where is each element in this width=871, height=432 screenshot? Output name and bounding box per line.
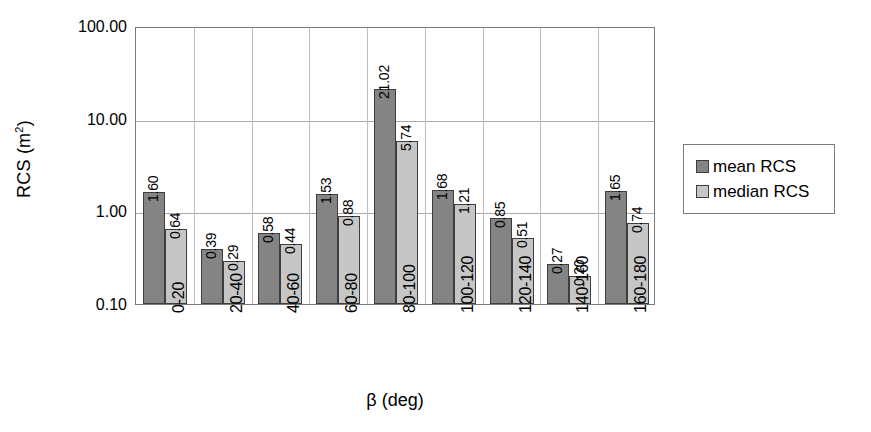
bar-value-label: 0.64	[168, 213, 182, 239]
x-axis-tick-label: 100-120	[460, 256, 476, 313]
category-separator-gridline	[598, 28, 599, 304]
bar-mean	[316, 194, 338, 304]
x-axis-tick-label: 120-140	[518, 256, 534, 313]
legend-swatch-mean	[696, 160, 709, 173]
legend-swatch-median	[696, 185, 709, 198]
y-axis-tick-label: 100.00	[57, 19, 127, 35]
bar-mean	[490, 218, 512, 304]
bar-value-label: 0.58	[261, 217, 275, 243]
y-axis-title: RCS (m2)	[13, 89, 35, 229]
category-separator-gridline	[309, 28, 310, 304]
x-axis-tick-label: 80-100	[402, 264, 418, 313]
bar-value-label: 1.65	[608, 175, 622, 201]
y-axis-tick-label: 1.00	[57, 204, 127, 220]
category-separator-gridline	[367, 28, 368, 304]
y-axis-title-paren: )	[14, 120, 34, 126]
bar-value-label: 0.74	[630, 207, 644, 233]
legend-item: median RCS	[696, 179, 824, 204]
bar-value-label: 21.02	[377, 65, 391, 99]
bar-mean	[432, 190, 454, 304]
bar-value-label: 5.74	[399, 125, 413, 151]
bar-value-label: 1.60	[146, 176, 160, 202]
category-separator-gridline	[425, 28, 426, 304]
bar-value-label: 1.68	[435, 174, 449, 200]
bar-value-label: 0.88	[341, 200, 355, 226]
bar-mean	[605, 191, 627, 304]
legend-label: median RCS	[713, 182, 809, 202]
x-axis-title: β (deg)	[135, 390, 655, 411]
x-axis-tick-label: 40-60	[286, 273, 302, 313]
bar-value-label: 1.53	[319, 178, 333, 204]
x-axis-tick-label: 140-160	[575, 256, 591, 313]
y-axis-tick-label: 0.10	[57, 297, 127, 313]
y-axis-tick-label: 10.00	[57, 112, 127, 128]
y-axis-tick-labels: 100.0010.001.000.10	[55, 0, 127, 432]
legend: mean RCSmedian RCS	[683, 144, 835, 214]
bar-mean	[143, 192, 165, 304]
category-separator-gridline	[194, 28, 195, 304]
bar-value-label: 0.44	[283, 228, 297, 254]
rcs-bar-chart: RCS (m2) 100.0010.001.000.10 1.600.640.3…	[0, 0, 871, 432]
legend-label: mean RCS	[713, 157, 796, 177]
bar-value-label: 0.29	[226, 245, 240, 271]
y-axis-title-text: RCS (m	[14, 133, 34, 198]
bar-mean	[374, 89, 396, 304]
bar-value-label: 0.85	[493, 201, 507, 227]
x-axis-tick-labels: 0-2020-4040-6060-8080-100100-120120-1401…	[135, 305, 655, 395]
y-axis-title-exponent: 2	[13, 126, 25, 132]
bar-value-label: 0.39	[204, 233, 218, 259]
category-separator-gridline	[252, 28, 253, 304]
x-axis-tick-label: 0-20	[171, 282, 187, 313]
bar-value-label: 1.21	[457, 187, 471, 213]
bar-value-label: 0.27	[550, 248, 564, 274]
category-separator-gridline	[483, 28, 484, 304]
bar-value-label: 0.51	[515, 222, 529, 248]
x-axis-tick-label: 20-40	[229, 273, 245, 313]
x-axis-tick-label: 60-80	[344, 273, 360, 313]
legend-item: mean RCS	[696, 154, 824, 179]
x-axis-tick-label: 160-180	[633, 256, 649, 313]
bar-mean	[258, 233, 280, 304]
category-separator-gridline	[540, 28, 541, 304]
